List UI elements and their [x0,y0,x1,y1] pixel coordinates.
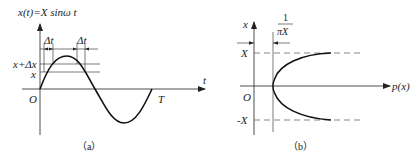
x-axis-label-b: x [242,18,248,30]
min-density-arrow-right [273,41,278,45]
origin-label-b: O [243,91,251,103]
fraction-numerator: 1 [283,12,288,23]
delta-t-left-label: Δt [43,34,54,46]
px-axis-label: p(x) [391,80,410,93]
delta-t-arrow-left-in [44,48,48,51]
lower-bound-label: -X [237,114,249,126]
origin-label-a: O [29,93,37,105]
min-density-arrow-left [249,41,254,45]
sine-curve [40,56,152,123]
panel-a-title: x(t)=X sinω t [17,6,78,19]
panel-a: x(t)=X sinω t Δt Δt x+Δx x t O T （a） [12,6,207,152]
t-axis-label: t [203,74,207,86]
delta-t-right-label: Δt [76,34,87,46]
upper-bound-label: X [240,47,249,59]
x-label: x [30,68,36,80]
caption-b: （b） [288,141,313,152]
delta-t-arrow-left-out [49,48,53,51]
diagram-canvas: x(t)=X sinω t Δt Δt x+Δx x t O T （a） x 1… [0,0,418,164]
panel-b: x 1 πX X O -X p(x) （b） [237,12,410,152]
fraction-denominator: πX [277,26,289,37]
caption-a: （a） [77,141,101,152]
delta-t-arrow-right-in [73,48,77,51]
probability-density-curve [273,53,331,120]
period-label: T [158,93,165,105]
delta-t-arrow-right-out [85,48,89,51]
